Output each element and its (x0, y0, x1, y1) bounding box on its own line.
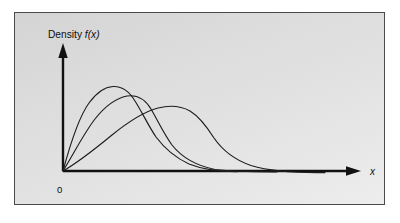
y-axis-arrow-icon (58, 43, 67, 58)
density-curve-1 (63, 86, 237, 171)
x-axis-label: x (369, 166, 376, 177)
y-axis-label-function: f(x) (85, 29, 100, 40)
figure-root: Density f(x) 0 x (0, 0, 400, 223)
x-axis-arrow-icon (346, 166, 361, 176)
density-plot: Density f(x) 0 x (15, 13, 385, 205)
y-axis-label: Density f(x) (48, 29, 100, 40)
y-axis-label-prefix: Density (48, 29, 85, 40)
origin-label: 0 (57, 184, 62, 195)
figure-frame: Density f(x) 0 x (14, 12, 385, 205)
density-curve-2 (63, 96, 277, 172)
